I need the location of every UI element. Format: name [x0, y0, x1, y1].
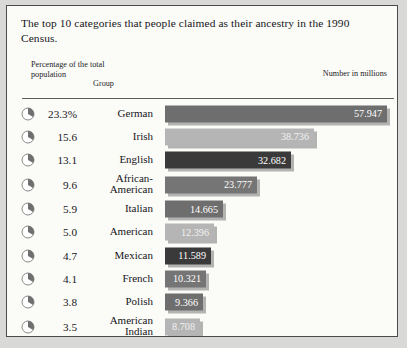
row-bar: 32.682 [165, 152, 291, 169]
row-bar-value: 23.777 [224, 179, 252, 190]
ancestry-figure-panel: The top 10 categories that people claime… [6, 5, 398, 337]
pie-chart-icon [21, 320, 35, 334]
chart-row: 5.0American12.396 [7, 221, 397, 244]
row-bar-value: 8.708 [172, 321, 195, 332]
row-bar: 57.947 [165, 105, 387, 122]
row-group-label: Italian [79, 203, 153, 215]
pie-chart-icon [21, 202, 35, 216]
row-bar-value: 12.396 [181, 227, 209, 238]
row-bar: 11.589 [165, 247, 211, 264]
pie-chart-icon [21, 178, 35, 192]
row-bar-value: 32.682 [258, 155, 286, 166]
row-bar-zone: 32.682 [165, 152, 291, 169]
row-group-label: American Indian [79, 315, 153, 337]
column-header-group: Group [93, 79, 153, 89]
column-header-number: Number in millions [267, 69, 387, 79]
chart-row: 13.1English32.682 [7, 149, 397, 172]
chart-row: 4.1French10.321 [7, 267, 397, 290]
pie-chart-icon [21, 107, 35, 121]
chart-row: 3.5American Indian8.708 [7, 314, 397, 337]
row-bar-value: 14.665 [190, 204, 218, 215]
chart-row: 5.9Italian14.665 [7, 197, 397, 220]
chart-row: 15.6Irish38.736 [7, 125, 397, 148]
row-bar: 8.708 [165, 318, 200, 335]
row-bar-value: 11.589 [178, 250, 206, 261]
row-percentage: 9.6 [35, 179, 77, 191]
row-group-label: American [79, 226, 153, 238]
figure-caption: The top 10 categories that people claime… [21, 16, 373, 45]
row-bar-zone: 14.665 [165, 201, 223, 218]
row-group-label: African-American [79, 173, 153, 197]
column-header-percentage: Percentage of the total population [31, 60, 121, 79]
chart-row: 3.8Polish9.366 [7, 291, 397, 314]
row-percentage: 4.7 [35, 250, 77, 262]
row-bar: 38.736 [165, 128, 314, 145]
row-group-label: Irish [79, 131, 153, 143]
row-bar: 14.665 [165, 201, 223, 218]
row-percentage: 3.8 [35, 296, 77, 308]
chart-row: 9.6African-American23.777 [7, 172, 397, 198]
row-bar-zone: 12.396 [165, 224, 214, 241]
pie-chart-icon [21, 153, 35, 167]
row-percentage: 4.1 [35, 273, 77, 285]
row-group-label: Polish [79, 296, 153, 308]
row-bar-zone: 38.736 [165, 128, 314, 145]
pie-chart-icon [21, 130, 35, 144]
row-bar-zone: 57.947 [165, 105, 387, 122]
row-bar-zone: 8.708 [165, 318, 200, 335]
row-bar-value: 57.947 [354, 108, 382, 119]
row-bar-value: 10.321 [173, 273, 201, 284]
header-divider [22, 98, 394, 99]
row-percentage: 3.5 [35, 321, 77, 333]
pie-chart-icon [21, 272, 35, 286]
column-headers: Percentage of the total population Group… [7, 60, 397, 96]
row-group-label: German [79, 108, 153, 120]
row-bar-zone: 11.589 [165, 247, 211, 264]
pie-chart-icon [21, 225, 35, 239]
chart-row: 23.3%German57.947 [7, 102, 397, 125]
chart-rows: 23.3%German57.94715.6Irish38.73613.1Engl… [7, 102, 397, 337]
pie-chart-icon [21, 249, 35, 263]
row-group-label: Mexican [79, 250, 153, 262]
pie-chart-icon [21, 295, 35, 309]
row-group-label: English [79, 154, 153, 166]
row-percentage: 5.9 [35, 203, 77, 215]
row-bar: 12.396 [165, 224, 214, 241]
row-percentage: 23.3% [35, 108, 77, 120]
row-bar-value: 38.736 [281, 131, 309, 142]
row-percentage: 13.1 [35, 154, 77, 166]
row-group-label: French [79, 273, 153, 285]
row-bar-value: 9.366 [175, 297, 198, 308]
row-bar-zone: 10.321 [165, 270, 206, 287]
row-bar: 23.777 [165, 176, 257, 193]
row-percentage: 15.6 [35, 131, 77, 143]
row-bar: 10.321 [165, 270, 206, 287]
row-percentage: 5.0 [35, 226, 77, 238]
row-bar: 9.366 [165, 294, 203, 311]
chart-row: 4.7Mexican11.589 [7, 244, 397, 267]
row-bar-zone: 23.777 [165, 176, 257, 193]
row-bar-zone: 9.366 [165, 294, 203, 311]
